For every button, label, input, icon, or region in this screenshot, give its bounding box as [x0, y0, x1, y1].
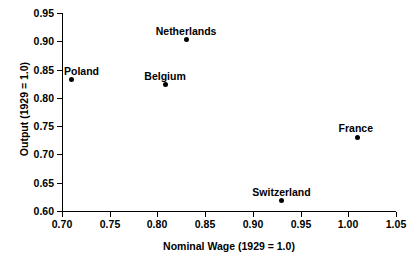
x-tick-label: 1.05 [376, 219, 414, 230]
data-point-belgium [163, 82, 168, 87]
y-tick-mark [57, 13, 62, 14]
x-axis-title: Nominal Wage (1929 = 1.0) [62, 240, 396, 252]
y-tick-mark [57, 98, 62, 99]
y-axis-title: Output (1929 = 1.0) [18, 19, 30, 199]
scatter-chart: 0.600.650.700.750.800.850.900.95 0.700.7… [0, 0, 414, 264]
y-tick-label: 0.95 [24, 8, 54, 19]
x-tick-label: 0.70 [42, 219, 82, 230]
x-tick-mark [348, 212, 349, 217]
x-tick-label: 0.80 [137, 219, 177, 230]
y-axis-line [62, 13, 63, 211]
x-tick-label: 0.90 [233, 219, 273, 230]
y-tick-mark [57, 183, 62, 184]
data-label-france: France [339, 123, 373, 134]
x-tick-label: 0.85 [185, 219, 225, 230]
data-label-belgium: Belgium [144, 71, 185, 82]
data-label-switzerland: Switzerland [252, 187, 310, 198]
top-edge-artifact [6, 0, 126, 4]
x-tick-label: 0.95 [281, 219, 321, 230]
y-tick-mark [57, 41, 62, 42]
y-tick-label-wrap: 0.60 [18, 206, 54, 217]
x-tick-mark [110, 212, 111, 217]
x-tick-label: 0.75 [90, 219, 130, 230]
x-tick-mark [396, 212, 397, 217]
x-tick-mark [62, 212, 63, 217]
y-tick-mark [57, 126, 62, 127]
y-tick-mark [57, 70, 62, 71]
data-point-poland [69, 77, 74, 82]
y-tick-label-wrap: 0.95 [18, 8, 54, 19]
x-tick-mark [205, 212, 206, 217]
y-tick-mark [57, 154, 62, 155]
data-label-netherlands: Netherlands [156, 26, 217, 37]
x-tick-mark [157, 212, 158, 217]
x-axis-line [62, 211, 396, 212]
x-tick-mark [253, 212, 254, 217]
data-label-poland: Poland [64, 66, 99, 77]
x-tick-mark [301, 212, 302, 217]
data-point-netherlands [184, 37, 189, 42]
y-tick-label: 0.60 [24, 206, 54, 217]
data-point-switzerland [279, 198, 284, 203]
data-point-france [355, 135, 360, 140]
x-tick-label: 1.00 [328, 219, 368, 230]
